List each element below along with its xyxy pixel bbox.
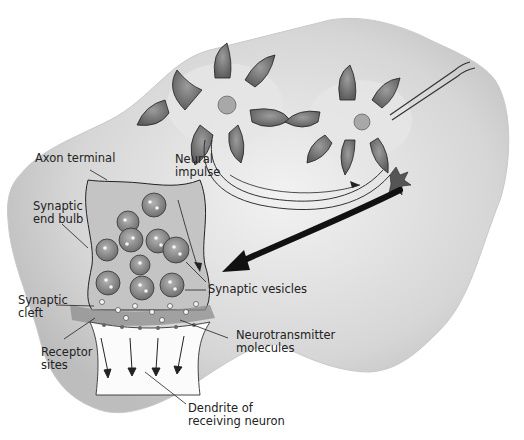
label-neural-impulse: Neural impulse <box>175 153 220 179</box>
label-neurotransmitter-molecules: Neurotransmitter molecules <box>236 329 335 355</box>
dendrite <box>90 322 210 395</box>
label-dendrite: Dendrite of receiving neuron <box>188 402 285 428</box>
label-synaptic-vesicles: Synaptic vesicles <box>208 283 307 296</box>
label-axon-terminal: Axon terminal <box>35 152 115 165</box>
label-synaptic-cleft: Synaptic cleft <box>18 294 68 320</box>
synapse-diagram: Axon terminal Neural impulse Synaptic en… <box>0 0 524 440</box>
label-receptor-sites: Receptor sites <box>41 346 93 372</box>
label-synaptic-end-bulb: Synaptic end bulb <box>33 200 83 226</box>
